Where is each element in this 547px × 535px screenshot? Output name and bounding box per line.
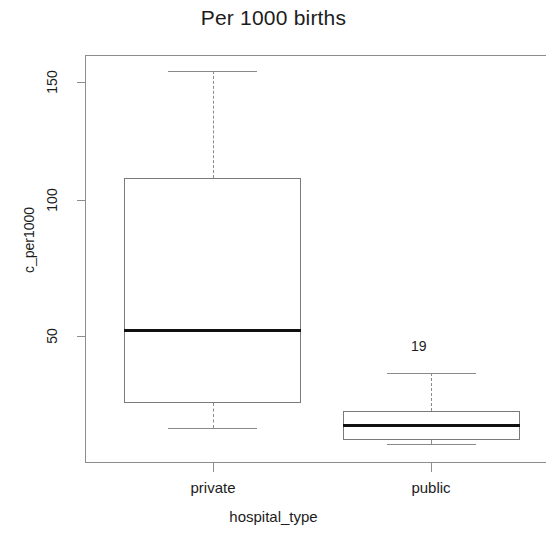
y-tick-mark-100 (77, 200, 86, 201)
y-tick-label-50: 50 (44, 306, 60, 366)
public-median-line (343, 424, 520, 427)
y-tick-mark-150 (77, 82, 86, 83)
y-axis-title: c_per1000 (21, 190, 37, 290)
x-tick-label-private: private (143, 479, 283, 496)
x-axis-title: hospital_type (0, 508, 547, 525)
boxplot-chart: Per 1000 births c_per1000 hospital_type … (0, 0, 547, 535)
y-tick-label-100: 100 (44, 170, 60, 230)
private-upper-whisker-line (213, 71, 214, 178)
private-median-line (124, 329, 301, 332)
y-tick-label-150: 150 (44, 52, 60, 112)
y-tick-mark-50 (77, 336, 86, 337)
x-tick-mark-public (431, 463, 432, 472)
private-lower-whisker-line (213, 403, 214, 428)
public-upper-whisker-line (431, 373, 432, 411)
public-outlier-label: 19 (411, 338, 427, 354)
private-upper-whisker-cap (168, 71, 257, 72)
public-upper-whisker-cap (387, 373, 476, 374)
private-lower-whisker-cap (168, 428, 257, 429)
private-box-rect (124, 178, 301, 403)
x-tick-mark-private (213, 463, 214, 472)
public-lower-whisker-cap (387, 444, 476, 445)
x-tick-label-public: public (361, 479, 501, 496)
chart-title: Per 1000 births (0, 6, 547, 30)
